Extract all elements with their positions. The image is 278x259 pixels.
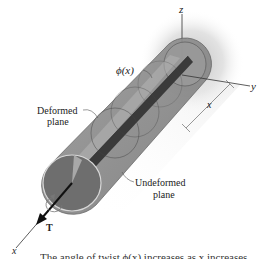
y-axis-label: y bbox=[250, 80, 256, 92]
torque-label: T bbox=[46, 222, 53, 233]
x-axis-label: x bbox=[11, 245, 17, 256]
figure-caption: The angle of twist ϕ(x) increases as x i… bbox=[40, 249, 270, 259]
undeformed-label-line1: Undeformed bbox=[135, 177, 186, 188]
deformed-label-line2: plane bbox=[47, 116, 69, 127]
deformed-leader bbox=[83, 110, 98, 118]
angle-of-twist-label: ϕ(x) bbox=[116, 64, 134, 77]
undeformed-label-line2: plane bbox=[153, 189, 175, 200]
z-axis-label: z bbox=[178, 3, 184, 15]
deformed-label-line1: Deformed bbox=[37, 105, 78, 116]
dimension-label: x bbox=[206, 99, 212, 110]
torsion-diagram: z y T x ϕ(x) Deformed plane Undeformed p… bbox=[0, 0, 278, 259]
